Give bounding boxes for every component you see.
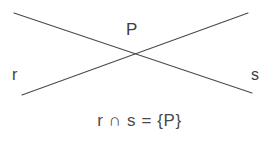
point-label-p: P <box>126 21 137 38</box>
line-label-r: r <box>12 67 17 83</box>
set-notation-caption: r ∩ s = {P} <box>0 110 279 131</box>
geometry-figure: P r s r ∩ s = {P} <box>0 0 279 142</box>
line-label-s: s <box>251 67 259 83</box>
